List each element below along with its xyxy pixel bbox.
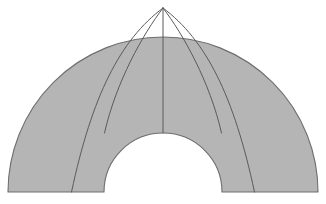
diagram-canvas bbox=[0, 0, 326, 204]
annulus-figure bbox=[0, 0, 326, 204]
